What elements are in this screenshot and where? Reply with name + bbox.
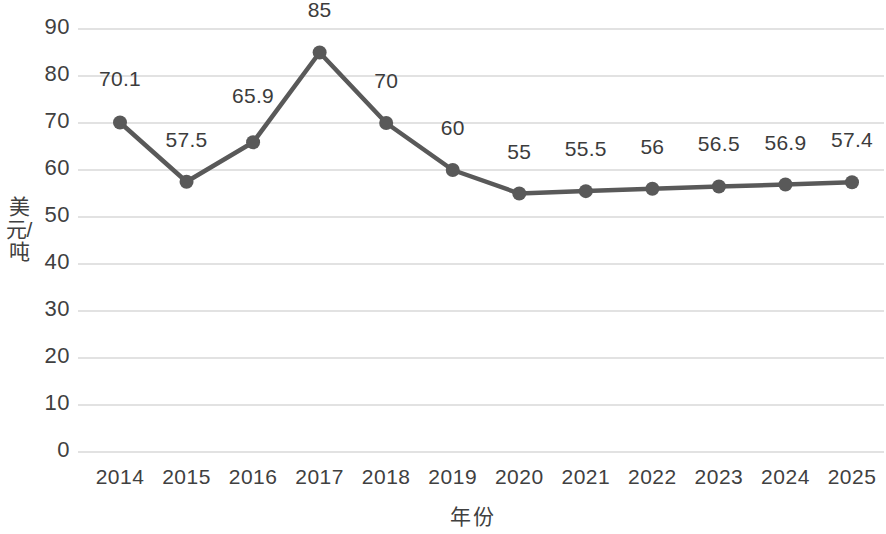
x-axis-title: 年份 <box>0 500 886 530</box>
data-point-marker <box>712 179 726 193</box>
data-point-marker <box>379 116 393 130</box>
data-point-marker <box>180 175 194 189</box>
data-point-marker <box>845 175 859 189</box>
x-axis-title-text: 年份 <box>390 505 496 528</box>
line-chart: 9080706050403020100 20142015201620172018… <box>0 0 886 534</box>
y-axis-tick-label: 20 <box>20 343 70 369</box>
y-axis-tick-label: 30 <box>20 296 70 322</box>
data-point-marker <box>579 184 593 198</box>
data-value-label: 57.4 <box>807 128 886 152</box>
gridlines <box>78 29 884 452</box>
y-axis-tick-label: 60 <box>20 155 70 181</box>
data-point-marker <box>246 135 260 149</box>
y-axis-tick-label: 90 <box>20 14 70 40</box>
data-point-marker <box>113 116 127 130</box>
data-value-label: 60 <box>408 116 498 140</box>
data-point-marker <box>446 163 460 177</box>
x-axis-tick-label: 2025 <box>807 465 886 489</box>
y-axis-tick-label: 80 <box>20 61 70 87</box>
data-value-label: 57.5 <box>142 128 232 152</box>
data-value-label: 65.9 <box>208 84 298 108</box>
data-point-marker <box>313 46 327 60</box>
data-value-label: 70 <box>341 69 431 93</box>
data-point-marker <box>512 187 526 201</box>
y-axis-tick-label: 0 <box>20 437 70 463</box>
data-point-marker <box>645 182 659 196</box>
data-value-label: 70.1 <box>75 67 165 91</box>
y-axis-title: 美元/吨 <box>2 196 36 264</box>
data-value-label: 85 <box>275 0 365 22</box>
y-axis-tick-label: 70 <box>20 108 70 134</box>
data-point-marker <box>778 178 792 192</box>
y-axis-tick-label: 10 <box>20 390 70 416</box>
